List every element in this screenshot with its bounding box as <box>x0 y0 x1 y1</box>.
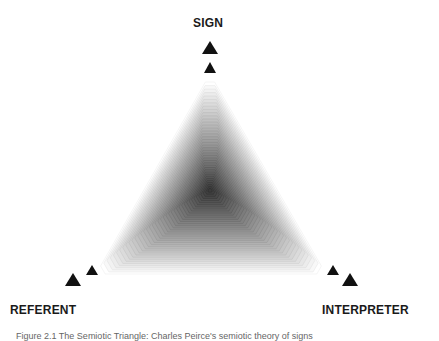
figure-caption: Figure 2.1 The Semiotic Triangle: Charle… <box>16 331 313 341</box>
interpreter-outer-marker-icon <box>342 273 358 286</box>
referent-inner-marker-icon <box>86 265 98 275</box>
shaded-triangle <box>101 82 322 274</box>
sign-inner-marker-icon <box>204 62 216 73</box>
interpreter-inner-marker-icon <box>327 265 339 275</box>
sign-outer-marker-icon <box>202 41 218 54</box>
referent-outer-marker-icon <box>65 273 81 286</box>
